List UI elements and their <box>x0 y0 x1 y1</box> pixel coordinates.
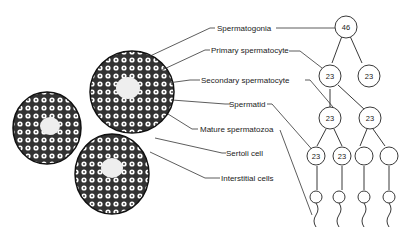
label-interstitial-cells: Interstitial cells <box>221 174 273 183</box>
node-spermatid-2: 23 <box>338 152 346 161</box>
label-secondary-spermatocyte: Secondary spermatocyte <box>201 76 290 85</box>
label-spermatid: Spermatid <box>229 100 265 109</box>
seminiferous-tubule-bottom <box>75 134 149 214</box>
label-sertoli-cell: Sertoli cell <box>226 149 263 158</box>
seminiferous-tubule-left <box>13 92 81 164</box>
node-primary-left: 23 <box>326 72 334 81</box>
diagram-canvas: 46 23 23 23 23 23 23 <box>0 0 404 241</box>
seminiferous-tubule-top <box>90 51 174 133</box>
label-primary-spermatocyte: Primary spermatocyte <box>211 46 289 55</box>
label-mature-spermatozoa: Mature spermatozoa <box>200 125 273 134</box>
node-spermatogonia: 46 <box>342 23 350 32</box>
leader-lines <box>148 28 335 215</box>
node-spermatid-1: 23 <box>312 152 320 161</box>
node-primary-right: 23 <box>365 72 373 81</box>
label-spermatogonia: Spermatogonia <box>217 24 271 33</box>
node-secondary-right: 23 <box>366 114 374 123</box>
chromosome-tree <box>307 16 398 227</box>
node-secondary-left: 23 <box>326 114 334 123</box>
